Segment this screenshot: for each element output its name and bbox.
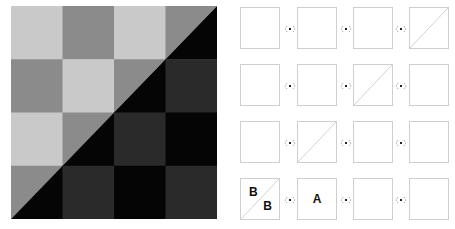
tile-r1-c4 [409, 7, 449, 49]
swap-connector-icon [340, 25, 352, 33]
swap-connector-icon [340, 139, 352, 147]
tile-r2-c4 [409, 64, 449, 106]
swap-connector-icon [395, 196, 407, 204]
swap-connector-icon [395, 25, 407, 33]
tile-r4-c4 [409, 178, 449, 220]
swap-connector-icon [284, 25, 296, 33]
swap-connector-icon [284, 82, 296, 90]
checkerboard-diagram [11, 6, 217, 219]
swap-connector-icon [340, 196, 352, 204]
tile-r3-c4 [409, 121, 449, 163]
diagonal-line [298, 122, 336, 162]
tile-r1-c2 [297, 7, 337, 49]
tile-label-b-top: B [249, 186, 258, 198]
swap-connector-icon [284, 196, 296, 204]
swap-connector-icon [395, 139, 407, 147]
tile-r3-c3 [353, 121, 393, 163]
tile-r4-c1: B B [240, 178, 280, 220]
tile-label-a: A [298, 193, 336, 205]
swap-connector-icon [395, 82, 407, 90]
checkerboard-graphic [11, 6, 217, 219]
tile-r2-c2 [297, 64, 337, 106]
tile-r4-c2: A [297, 178, 337, 220]
tile-r2-c1 [240, 64, 280, 106]
swap-connector-icon [340, 82, 352, 90]
tile-r3-c2 [297, 121, 337, 163]
diagonal-line [354, 65, 392, 105]
tile-label-b-bottom: B [263, 200, 272, 212]
swap-connector-icon [284, 139, 296, 147]
tile-r1-c3 [353, 7, 393, 49]
diagonal-line [241, 179, 279, 219]
tile-r4-c3 [353, 178, 393, 220]
tile-r3-c1 [240, 121, 280, 163]
tile-r2-c3 [353, 64, 393, 106]
diagonal-line [410, 8, 448, 48]
tile-r1-c1 [240, 7, 280, 49]
